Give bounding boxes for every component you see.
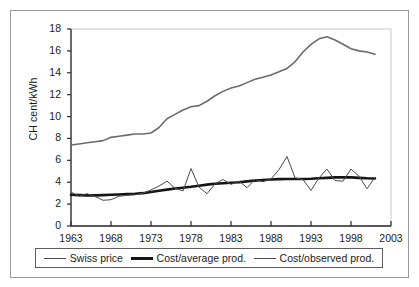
x-tick-label: 1998 — [331, 233, 371, 244]
legend-line-icon — [254, 258, 276, 259]
x-tick-label: 1968 — [91, 233, 131, 244]
chart-legend: Swiss priceCost/average prod.Cost/observ… — [35, 248, 383, 268]
y-tick-label: 12 — [35, 89, 61, 100]
x-tick-label: 1963 — [51, 233, 91, 244]
y-tick-label: 6 — [35, 154, 61, 165]
chart-svg — [11, 11, 410, 233]
legend-item[interactable]: Swiss price — [44, 252, 123, 264]
legend-item[interactable]: Cost/observed prod. — [254, 252, 375, 264]
x-tick-label: 1993 — [291, 233, 331, 244]
y-tick-label: 16 — [35, 45, 61, 56]
figure-frame: CH cent/kWh 024681012141618 196319681973… — [10, 10, 409, 278]
y-tick-label: 2 — [35, 198, 61, 209]
x-tick-label: 1983 — [211, 233, 251, 244]
y-tick-label: 0 — [35, 220, 61, 231]
x-tick-label: 1988 — [251, 233, 291, 244]
series-line-0 — [71, 37, 375, 145]
legend-line-icon — [44, 258, 66, 259]
plot-area: CH cent/kWh 024681012141618 196319681973… — [11, 11, 410, 233]
legend-label: Cost/average prod. — [157, 252, 246, 264]
x-tick-label: 2003 — [371, 233, 411, 244]
y-tick-label: 18 — [35, 23, 61, 34]
legend-label: Cost/observed prod. — [280, 252, 375, 264]
legend-item[interactable]: Cost/average prod. — [131, 252, 246, 264]
x-tick-label: 1978 — [171, 233, 211, 244]
x-tick-label: 1973 — [131, 233, 171, 244]
y-tick-label: 4 — [35, 176, 61, 187]
legend-line-icon — [131, 257, 153, 260]
legend-label: Swiss price — [70, 252, 123, 264]
y-tick-label: 8 — [35, 132, 61, 143]
y-tick-label: 10 — [35, 111, 61, 122]
y-tick-label: 14 — [35, 67, 61, 78]
